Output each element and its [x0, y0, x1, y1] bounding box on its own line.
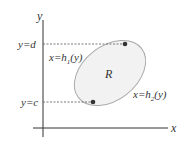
region-diagram: y x y=d y=c R x=h1(y) x=h2(y)	[0, 0, 188, 149]
point-top	[123, 42, 128, 47]
y-axis-label: y	[36, 9, 43, 23]
level-c-label: y=c	[20, 96, 38, 108]
x-axis-label: x	[170, 121, 177, 135]
left-curve-label: x=h1(y)	[48, 51, 83, 66]
point-bottom	[91, 100, 96, 105]
region-label: R	[104, 67, 113, 81]
level-d-label: y=d	[17, 38, 36, 50]
right-curve-label: x=h2(y)	[132, 88, 167, 103]
